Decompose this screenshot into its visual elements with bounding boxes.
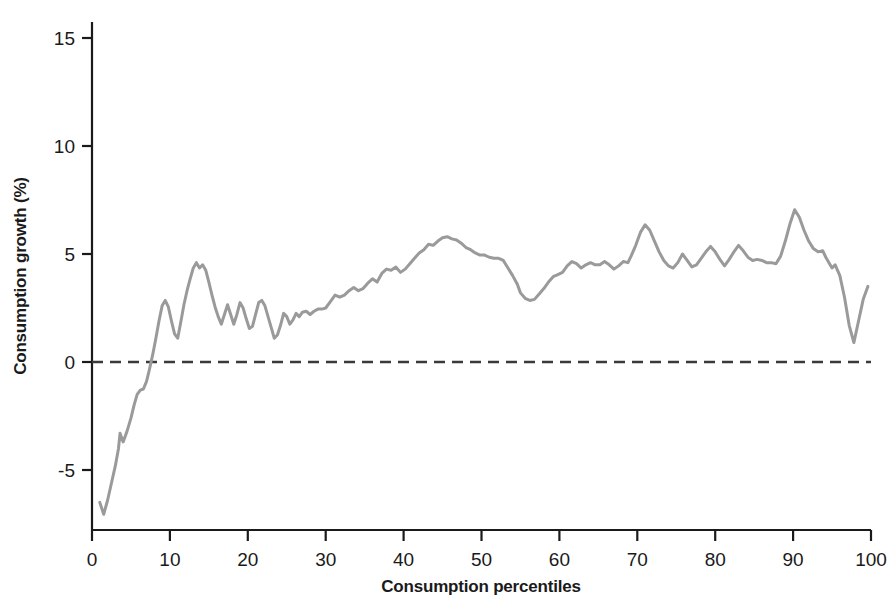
consumption-growth-line-chart: -5051015 0102030405060708090100 Consumpt… — [0, 0, 888, 603]
x-tick-label: 80 — [705, 549, 726, 570]
y-tick-label: -5 — [58, 460, 75, 481]
y-tick-label: 5 — [64, 244, 75, 265]
x-tick-label: 0 — [87, 549, 98, 570]
y-tick-label: 15 — [54, 28, 75, 49]
x-tick-label: 40 — [393, 549, 414, 570]
x-tick-label: 60 — [549, 549, 570, 570]
x-tick-label: 10 — [159, 549, 180, 570]
chart-figure: -5051015 0102030405060708090100 Consumpt… — [0, 0, 888, 603]
x-tick-label: 70 — [627, 549, 648, 570]
x-axis-title: Consumption percentiles — [381, 577, 580, 596]
y-tick-label: 0 — [64, 352, 75, 373]
x-tick-label: 20 — [237, 549, 258, 570]
chart-background — [0, 0, 888, 603]
x-tick-label: 90 — [783, 549, 804, 570]
x-tick-label: 100 — [855, 549, 887, 570]
y-tick-label: 10 — [54, 136, 75, 157]
y-axis-title: Consumption growth (%) — [11, 177, 30, 375]
x-tick-label: 50 — [471, 549, 492, 570]
x-tick-label: 30 — [315, 549, 336, 570]
